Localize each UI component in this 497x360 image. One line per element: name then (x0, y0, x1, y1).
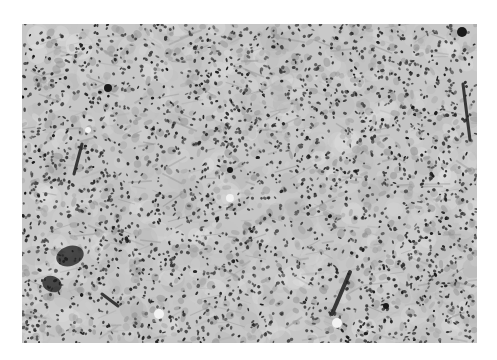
tissue-section-image (22, 24, 477, 343)
histology-micrograph (22, 24, 477, 343)
